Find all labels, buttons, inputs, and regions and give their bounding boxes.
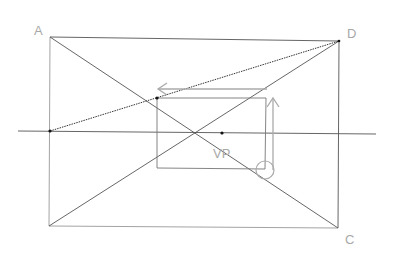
label-d: D (347, 27, 356, 40)
up-arrow-icon (267, 98, 279, 170)
label-a: A (34, 24, 43, 37)
label-vp: VP (213, 147, 230, 160)
left-arrow-icon (158, 83, 267, 95)
perspective-diagram: A D C VP (0, 0, 394, 256)
inner-rectangle (157, 98, 266, 169)
label-c: C (345, 233, 354, 246)
dotted-line (50, 41, 339, 131)
